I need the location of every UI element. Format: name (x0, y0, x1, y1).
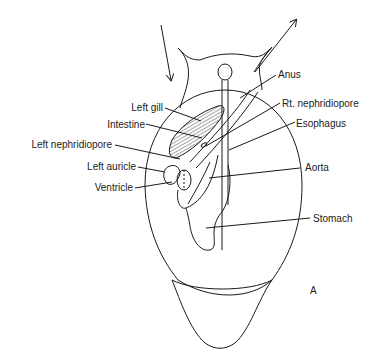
siphon-outline (178, 47, 272, 108)
label-esophagus: Esophagus (296, 118, 346, 129)
foot-outline (172, 280, 272, 348)
label-left-nephridiopore: Left nephridiopore (31, 139, 112, 150)
label-stomach: Stomach (313, 213, 352, 224)
label-left-gill: Left gill (131, 102, 163, 113)
body-outline (145, 90, 302, 295)
anatomy-diagram: Left gill Intestine Left nephridiopore L… (0, 0, 383, 363)
label-rt-nephridiopore: Rt. nephridiopore (282, 98, 359, 109)
label-aorta: Aorta (305, 162, 329, 173)
label-intestine: Intestine (107, 119, 145, 130)
stomach-shape (186, 165, 230, 250)
outflow-arrow (255, 20, 296, 72)
esophagus-tube (218, 64, 232, 250)
inflow-arrow (161, 25, 171, 80)
rt-nephridiopore-shape (201, 142, 208, 148)
panel-letter: A (310, 285, 317, 296)
aorta-vessel (177, 155, 218, 208)
label-anus: Anus (278, 69, 301, 80)
heart (164, 165, 191, 190)
leader-lines (115, 75, 310, 228)
label-ventricle: Ventricle (95, 182, 134, 193)
siphon-inner (254, 47, 272, 72)
label-left-auricle: Left auricle (87, 161, 136, 172)
